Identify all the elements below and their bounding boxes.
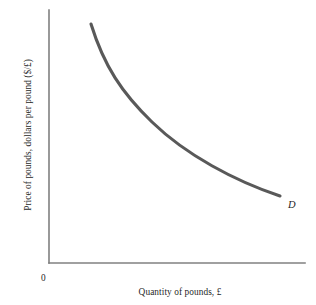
demand-curve-figure: Price of pounds, dollars per pound ($/£)… [0,0,316,305]
x-axis-label: Quantity of pounds, £ [139,287,222,297]
demand-curve-line [91,24,280,196]
demand-curve-label: D [288,199,296,210]
y-axis-label: Price of pounds, dollars per pound ($/£) [23,59,33,211]
chart-canvas [0,0,316,305]
origin-label: 0 [41,273,46,283]
